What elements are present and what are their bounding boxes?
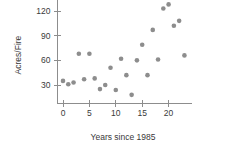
x-axis-title: Years since 1985 — [91, 132, 156, 142]
data-point — [108, 65, 113, 70]
data-point — [66, 82, 71, 87]
y-tick-label: 60 — [41, 55, 51, 65]
data-point — [161, 6, 166, 11]
data-point — [135, 58, 140, 63]
y-axis-title: Acres/Fire — [13, 35, 23, 74]
data-point — [114, 88, 119, 93]
scatter-plot-figure: 306090120 05101520 Years since 1985 Acre… — [0, 0, 247, 147]
x-tick-label: 5 — [87, 108, 92, 118]
y-axis: 306090120 — [36, 0, 61, 103]
data-point — [82, 77, 87, 82]
data-point — [182, 53, 187, 58]
data-point — [140, 42, 145, 47]
data-point — [92, 76, 97, 81]
x-tick-label: 15 — [137, 108, 147, 118]
data-point — [150, 28, 155, 33]
data-point — [87, 51, 92, 56]
data-point — [172, 24, 177, 29]
data-point — [124, 73, 129, 78]
data-point — [156, 57, 161, 62]
data-point — [98, 87, 103, 92]
data-point — [103, 83, 108, 88]
x-tick-label: 20 — [164, 108, 174, 118]
y-tick-label: 120 — [36, 6, 50, 16]
data-point — [71, 80, 76, 85]
chart-canvas: 306090120 05101520 Years since 1985 Acre… — [0, 0, 247, 147]
data-points-layer — [61, 2, 187, 97]
y-tick-label: 30 — [41, 80, 51, 90]
data-point — [145, 73, 150, 78]
data-point — [129, 93, 134, 98]
data-point — [119, 56, 124, 61]
data-point — [61, 79, 66, 84]
y-tick-label: 90 — [41, 31, 51, 41]
x-tick-label: 10 — [111, 108, 121, 118]
data-point — [177, 19, 182, 24]
data-point — [77, 51, 82, 56]
data-point — [166, 2, 171, 7]
x-tick-label: 0 — [61, 108, 66, 118]
x-axis: 05101520 — [57, 100, 193, 118]
